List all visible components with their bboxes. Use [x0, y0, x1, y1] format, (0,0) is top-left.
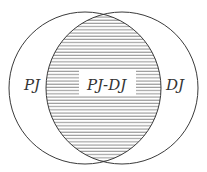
venn-diagram: PJ PJ-DJ DJ: [0, 0, 207, 172]
label-intersection: PJ-DJ: [86, 76, 127, 94]
label-right-set: DJ: [165, 76, 185, 94]
venn-svg: PJ PJ-DJ DJ: [0, 0, 207, 172]
label-left-set: PJ: [23, 76, 41, 94]
